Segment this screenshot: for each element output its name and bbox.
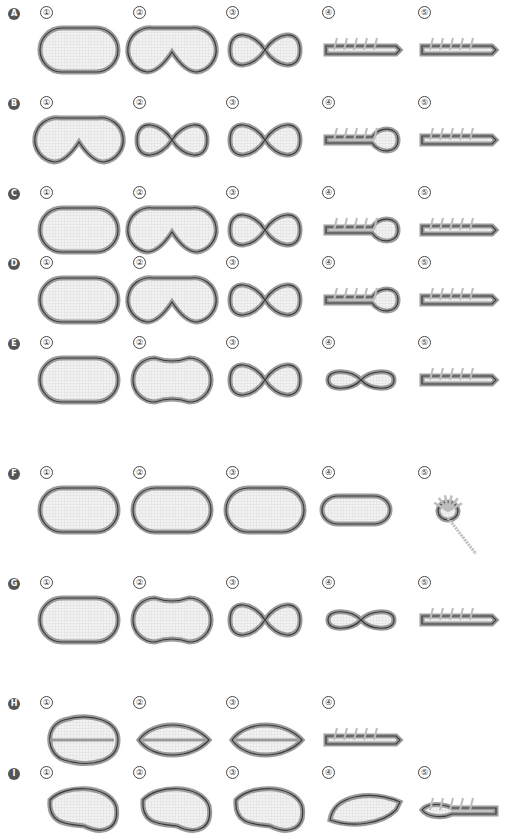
lens-mesh-icon xyxy=(133,710,215,772)
step-number: ④ xyxy=(322,6,335,19)
step-number: ④ xyxy=(322,466,335,479)
step-number: ⑤ xyxy=(418,576,431,589)
egg-mesh-icon xyxy=(40,710,122,772)
row-f: F①②③④⑤ xyxy=(0,466,512,566)
step-number: ① xyxy=(40,696,53,709)
step-number: ③ xyxy=(226,576,239,589)
strip-mesh-icon xyxy=(418,350,500,412)
step-number: ② xyxy=(133,96,146,109)
step-number: ④ xyxy=(322,576,335,589)
step-number: ③ xyxy=(226,466,239,479)
step-number: ② xyxy=(133,576,146,589)
row-i: I①②③④⑤ xyxy=(0,766,512,836)
step-number: ⑤ xyxy=(418,256,431,269)
bean-mesh-icon xyxy=(40,780,122,839)
row-label-badge: G xyxy=(8,578,20,590)
step-number: ② xyxy=(133,696,146,709)
oval-mesh-icon xyxy=(40,480,122,542)
step-number: ⑤ xyxy=(418,6,431,19)
flower-mesh-icon xyxy=(418,480,500,542)
oval-mesh-icon xyxy=(40,270,122,332)
step-number: ① xyxy=(40,576,53,589)
step-number: ⑤ xyxy=(418,766,431,779)
step-number: ③ xyxy=(226,696,239,709)
loopstrip-mesh-icon xyxy=(322,110,404,172)
row-label-badge: H xyxy=(8,698,20,710)
row-e: E①②③④⑤ xyxy=(0,336,512,456)
step-number: ③ xyxy=(226,96,239,109)
step-number: ⑤ xyxy=(418,96,431,109)
wedge-mesh-icon xyxy=(322,780,404,839)
oval-mesh-icon xyxy=(226,480,308,542)
strip-mesh-icon xyxy=(322,20,404,82)
bean-mesh-icon xyxy=(226,780,308,839)
strip-mesh-icon xyxy=(322,710,404,772)
step-number: ① xyxy=(40,466,53,479)
figure8-mesh-icon xyxy=(133,110,215,172)
step-number: ③ xyxy=(226,6,239,19)
step-number: ④ xyxy=(322,336,335,349)
step-number: ② xyxy=(133,336,146,349)
step-number: ① xyxy=(40,6,53,19)
figure8-mesh-icon xyxy=(226,200,308,262)
dented-mesh-icon xyxy=(133,270,215,332)
figure8-mesh-icon xyxy=(226,350,308,412)
dented-mesh-icon xyxy=(133,200,215,262)
oval-mesh-icon xyxy=(40,200,122,262)
figure8-mesh-icon xyxy=(226,110,308,172)
row-b: B①②③④⑤ xyxy=(0,96,512,176)
bow-mesh-icon xyxy=(322,590,404,652)
step-number: ⑤ xyxy=(418,466,431,479)
peanut-mesh-icon xyxy=(133,350,215,412)
step-number: ④ xyxy=(322,186,335,199)
step-number: ② xyxy=(133,466,146,479)
loopstrip-mesh-icon xyxy=(322,270,404,332)
step-number: ② xyxy=(133,766,146,779)
step-number: ② xyxy=(133,6,146,19)
step-number: ④ xyxy=(322,256,335,269)
row-h: H①②③④ xyxy=(0,696,512,766)
step-number: ⑤ xyxy=(418,186,431,199)
step-number: ① xyxy=(40,336,53,349)
row-g: G①②③④⑤ xyxy=(0,576,512,686)
strip-mesh-icon xyxy=(418,270,500,332)
step-number: ③ xyxy=(226,256,239,269)
strip-mesh-icon xyxy=(418,590,500,652)
puck-mesh-icon xyxy=(322,480,404,542)
bean-mesh-icon xyxy=(133,780,215,839)
strip-mesh-icon xyxy=(418,20,500,82)
dented-mesh-icon xyxy=(133,20,215,82)
oval-mesh-icon xyxy=(133,480,215,542)
step-number: ④ xyxy=(322,696,335,709)
step-number: ④ xyxy=(322,96,335,109)
step-number: ② xyxy=(133,256,146,269)
figure8-mesh-icon xyxy=(226,20,308,82)
row-label-badge: C xyxy=(8,188,20,200)
row-label-badge: B xyxy=(8,98,20,110)
row-label-badge: F xyxy=(8,468,20,480)
step-number: ① xyxy=(40,186,53,199)
row-label-badge: D xyxy=(8,258,20,270)
loopstrip-mesh-icon xyxy=(322,200,404,262)
step-number: ③ xyxy=(226,336,239,349)
oval-mesh-icon xyxy=(40,590,122,652)
oval-mesh-icon xyxy=(40,350,122,412)
step-number: ① xyxy=(40,96,53,109)
oval-mesh-icon xyxy=(40,20,122,82)
step-number: ⑤ xyxy=(418,336,431,349)
row-label-badge: I xyxy=(8,768,20,780)
figure8-mesh-icon xyxy=(226,270,308,332)
row-c: C①②③④⑤ xyxy=(0,186,512,256)
row-a: A①②③④⑤ xyxy=(0,6,512,86)
row-label-badge: E xyxy=(8,338,20,350)
step-number: ③ xyxy=(226,186,239,199)
strip-mesh-icon xyxy=(418,110,500,172)
dented-mesh-icon xyxy=(40,110,122,172)
step-number: ② xyxy=(133,186,146,199)
step-number: ③ xyxy=(226,766,239,779)
row-label-badge: A xyxy=(8,8,20,20)
strip-mesh-icon xyxy=(418,200,500,262)
figure8-mesh-icon xyxy=(226,590,308,652)
tailstrip-mesh-icon xyxy=(418,780,500,839)
step-number: ① xyxy=(40,256,53,269)
